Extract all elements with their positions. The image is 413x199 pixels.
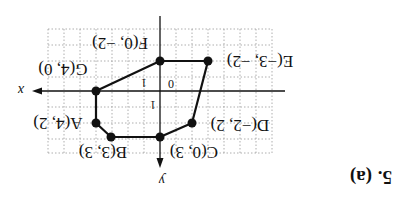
- label-g: G(4, 0): [38, 60, 87, 79]
- problem-number: 5.: [378, 167, 392, 188]
- vertex-c: [156, 133, 165, 142]
- x-axis-arrow-icon: [32, 88, 42, 95]
- y-axis-arrow-icon: [157, 158, 164, 168]
- problem-part: (a): [350, 166, 372, 188]
- origin-label: 0: [168, 77, 174, 91]
- x-axis-label: x: [17, 83, 25, 98]
- vertex-a: [92, 119, 101, 128]
- label-a: A(4, 2): [33, 114, 82, 133]
- vertex-g: [92, 87, 101, 96]
- label-d: D(−2, 2): [211, 116, 270, 135]
- label-c: C(0, 3): [170, 143, 218, 162]
- vertex-f: [156, 57, 165, 66]
- vertex-d: [188, 119, 197, 128]
- vertex-b: [107, 133, 116, 142]
- vertex-e: [204, 57, 213, 66]
- y-axis-label: y: [158, 173, 167, 188]
- label-f: F(0, −2): [92, 34, 148, 53]
- label-e: E(−3, −2): [227, 52, 293, 71]
- x-tick-label: 1: [141, 76, 147, 90]
- label-b: B(3, 3): [79, 143, 127, 162]
- y-tick-label: 1: [150, 98, 156, 112]
- diagram-stage: x y 0 1 1 A(4, 2) B(3,: [0, 0, 413, 199]
